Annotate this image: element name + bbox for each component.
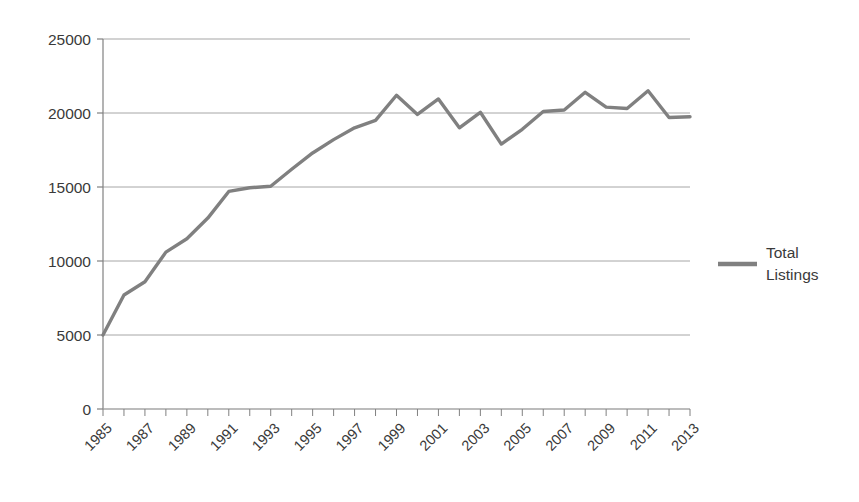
x-axis-tick-label: 1997 (333, 420, 367, 454)
x-axis-tick-label: 2003 (458, 420, 492, 454)
x-axis-tick-label: 1995 (291, 420, 325, 454)
x-axis-tick-label: 2013 (668, 420, 702, 454)
x-axis-tick-label: 1993 (249, 420, 283, 454)
line-chart: 2500020000150001000050000 19851987198919… (0, 0, 859, 502)
x-axis-tick-label: 1987 (123, 420, 157, 454)
y-axis-tick-label: 5000 (57, 327, 92, 344)
chart-container: 2500020000150001000050000 19851987198919… (0, 0, 859, 502)
y-axis-tick-label: 0 (82, 401, 91, 418)
x-axis-tick-label: 2011 (627, 420, 660, 453)
x-axis-tick-label: 1991 (207, 420, 241, 454)
legend-label-line1: Total (766, 244, 799, 261)
legend-label-line2: Listings (766, 266, 819, 283)
x-axis-tick-label: 2001 (416, 420, 450, 454)
x-axis-tick-label: 2005 (500, 420, 534, 454)
y-axis-ticks (97, 39, 103, 409)
y-axis-tick-label: 15000 (48, 179, 91, 196)
y-axis-tick-label: 25000 (48, 31, 91, 48)
x-axis-tick-labels: 1985198719891991199319951997199920012003… (81, 420, 702, 454)
x-axis-tick-label: 1985 (81, 420, 115, 454)
x-axis-tick-label: 1999 (374, 420, 408, 454)
chart-legend: Total Listings (718, 244, 819, 283)
x-axis-tick-label: 1989 (165, 420, 199, 454)
x-axis-ticks (103, 409, 690, 416)
y-axis-tick-label: 10000 (48, 253, 91, 270)
y-axis-tick-labels: 2500020000150001000050000 (48, 31, 91, 418)
y-axis-tick-label: 20000 (48, 105, 91, 122)
x-axis-tick-label: 2007 (542, 420, 576, 454)
x-axis-tick-label: 2009 (584, 420, 618, 454)
